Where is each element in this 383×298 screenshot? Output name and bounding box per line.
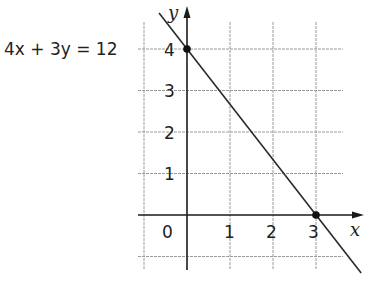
- labels-layer: y x 4x + 3y = 12 0 1 2 3 1 2 3 4: [4, 2, 360, 242]
- y-tick-label-4: 4: [164, 40, 175, 60]
- line-graph: y x 4x + 3y = 12 0 1 2 3 1 2 3 4: [0, 0, 383, 298]
- x-axis-arrow-icon: [352, 212, 364, 219]
- x-axis-label: x: [350, 219, 360, 240]
- x-tick-label-3: 3: [308, 222, 319, 242]
- y-tick-label-2: 2: [164, 123, 175, 143]
- y-tick-label-3: 3: [164, 81, 175, 101]
- data-point: [183, 45, 191, 53]
- equation-line-layer: [159, 13, 361, 273]
- y-axis-arrow-icon: [184, 6, 191, 18]
- equation-label: 4x + 3y = 12: [4, 39, 118, 59]
- x-tick-label-0: 0: [162, 222, 173, 242]
- data-point: [312, 211, 320, 219]
- x-tick-label-2: 2: [266, 222, 277, 242]
- y-tick-label-1: 1: [164, 164, 175, 184]
- equation-line: [159, 13, 361, 273]
- x-tick-label-1: 1: [224, 222, 235, 242]
- y-axis-label: y: [167, 2, 179, 23]
